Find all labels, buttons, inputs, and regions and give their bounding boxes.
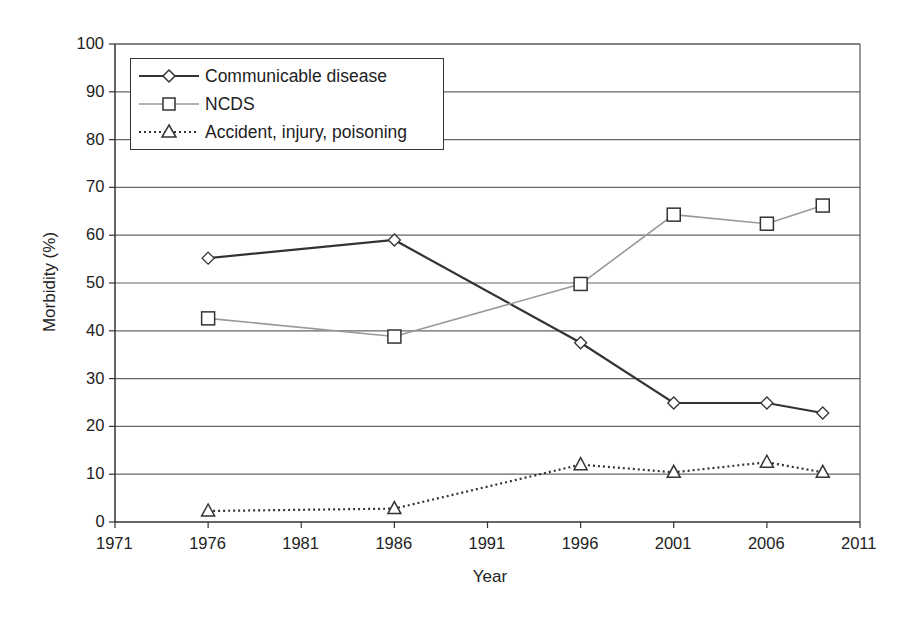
square-marker-icon xyxy=(816,199,829,212)
square-marker-icon xyxy=(139,94,199,114)
x-tick-label: 1976 xyxy=(189,534,226,553)
diamond-marker-icon xyxy=(139,66,199,86)
triangle-marker-icon xyxy=(139,122,199,142)
y-tick-label: 30 xyxy=(86,369,104,388)
y-tick-label: 80 xyxy=(86,130,104,149)
square-marker-icon xyxy=(760,217,773,230)
x-tick-label: 2001 xyxy=(655,534,692,553)
diamond-marker-icon xyxy=(575,337,587,349)
x-tick-label: 2006 xyxy=(748,534,785,553)
diamond-marker-icon xyxy=(817,407,829,419)
y-tick-label: 90 xyxy=(86,82,104,101)
x-axis-label: Year xyxy=(440,567,540,587)
y-tick-label: 70 xyxy=(86,177,104,196)
data-series xyxy=(202,199,830,516)
legend-label: Communicable disease xyxy=(205,66,387,87)
square-marker-icon xyxy=(574,277,587,290)
diamond-marker-icon xyxy=(668,397,680,409)
legend-label: NCDS xyxy=(205,94,255,115)
triangle-marker-icon xyxy=(760,455,773,467)
legend-item-communicable: Communicable disease xyxy=(131,63,387,89)
square-marker-icon xyxy=(388,330,401,343)
y-tick-label: 0 xyxy=(96,512,105,531)
y-axis-label: Morbidity (%) xyxy=(40,222,60,342)
square-marker-icon xyxy=(667,208,680,221)
legend-label: Accident, injury, poisoning xyxy=(205,122,407,143)
diamond-marker-icon xyxy=(761,397,773,409)
y-tick-label: 40 xyxy=(86,321,104,340)
y-tick-label: 60 xyxy=(86,225,104,244)
y-tick-label: 20 xyxy=(86,416,104,435)
series-accident-injury-poisoning xyxy=(202,455,830,516)
y-tick-label: 10 xyxy=(86,464,104,483)
legend-item-accident: Accident, injury, poisoning xyxy=(131,119,407,145)
x-tick-label: 2011 xyxy=(841,534,876,553)
square-marker-icon xyxy=(202,312,215,325)
x-tick-label: 1981 xyxy=(282,534,319,553)
y-tick-label: 50 xyxy=(86,273,104,292)
x-tick-label: 1971 xyxy=(96,534,133,553)
triangle-marker-icon xyxy=(574,458,587,470)
x-tick-label: 1986 xyxy=(375,534,412,553)
series-ncds xyxy=(202,199,830,343)
legend: Communicable disease NCDS Accident, inju… xyxy=(130,58,444,150)
x-tick-label: 1996 xyxy=(562,534,599,553)
x-tick-label: 1991 xyxy=(469,534,506,553)
diamond-marker-icon xyxy=(202,252,214,264)
triangle-marker-icon xyxy=(202,504,215,516)
y-tick-label: 100 xyxy=(77,34,105,53)
legend-item-ncds: NCDS xyxy=(131,91,255,117)
